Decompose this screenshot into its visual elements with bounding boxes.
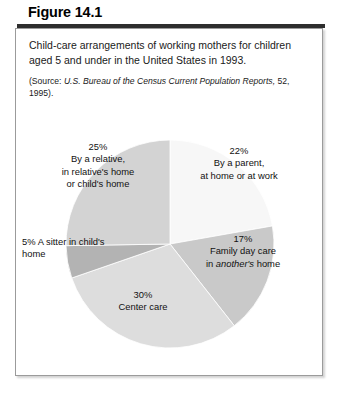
pie-label-center-care-line1: Center care — [78, 301, 208, 313]
figure-panel: Child-care arrangements of working mothe… — [15, 28, 323, 376]
pie-label-family-day-care-percent: 17% — [176, 233, 310, 245]
pie-chart-svg — [16, 29, 323, 376]
pie-label-by-a-relative: 25% By a relative, in relative's home or… — [28, 141, 168, 191]
pie-label-family-day-care-emphasis: another's — [216, 258, 254, 269]
pie-label-center-care: 30% Center care — [78, 289, 208, 314]
pie-label-by-a-parent: 22% By a parent, at home or at work — [174, 145, 304, 182]
pie-label-family-day-care-line1: Family day care — [176, 245, 310, 257]
pie-label-family-day-care-line2: in another's home — [176, 258, 310, 270]
pie-label-family-day-care: 17% Family day care in another's home — [176, 233, 310, 270]
pie-label-by-a-relative-line1: By a relative, — [28, 153, 168, 165]
pie-label-by-a-parent-percent: 22% — [174, 145, 304, 157]
pie-label-sitter: 5% A sitter in child's home — [22, 236, 130, 261]
pie-label-family-day-care-line2-pre: in — [206, 258, 216, 269]
pie-label-by-a-relative-percent: 25% — [28, 141, 168, 153]
pie-label-family-day-care-line2-post: home — [254, 258, 280, 269]
pie-label-by-a-parent-line2: at home or at work — [174, 170, 304, 182]
pie-label-sitter-line1: 5% A sitter in child's — [22, 236, 130, 248]
pie-label-by-a-parent-line1: By a parent, — [174, 157, 304, 169]
figure-title: Figure 14.1 — [28, 3, 102, 21]
pie-label-by-a-relative-line3: or child's home — [28, 178, 168, 190]
pie-label-center-care-percent: 30% — [78, 289, 208, 301]
pie-label-by-a-relative-line2: in relative's home — [28, 166, 168, 178]
pie-label-sitter-line2: home — [22, 248, 130, 260]
pie-chart: 22% By a parent, at home or at work 25% … — [16, 29, 323, 376]
